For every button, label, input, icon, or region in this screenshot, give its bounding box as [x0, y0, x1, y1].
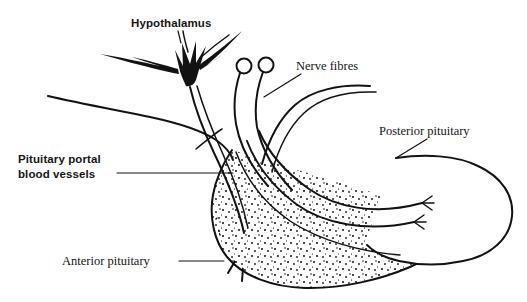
- label-pituitary-portal-line2: blood vessels: [18, 168, 95, 180]
- hypothalamus-base-outline: [48, 96, 233, 160]
- leader-nerve-fibres: [264, 74, 301, 97]
- diagram-canvas: Hypothalamus Nerve fibres Posterior pitu…: [0, 0, 527, 302]
- posterior-pituitary-lobe: [365, 156, 512, 265]
- label-anterior-pituitary: Anterior pituitary: [62, 254, 151, 268]
- pituitary-diagram: Hypothalamus Nerve fibres Posterior pitu…: [0, 0, 527, 302]
- label-posterior-pituitary: Posterior pituitary: [379, 124, 470, 138]
- leader-hypothalamus: [178, 31, 181, 43]
- label-nerve-fibres: Nerve fibres: [296, 59, 358, 73]
- label-hypothalamus: Hypothalamus: [131, 17, 211, 29]
- label-pituitary-portal-line1: Pituitary portal: [18, 153, 101, 165]
